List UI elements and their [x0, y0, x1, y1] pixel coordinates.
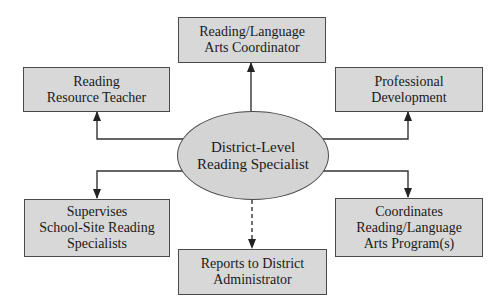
node-district-level-reading-specialist: District-Level Reading Specialist	[177, 111, 329, 200]
edge-to-lower-left	[97, 171, 185, 198]
node-professional-development: Professional Development	[335, 67, 483, 112]
node-supervises-school-site-reading-specialists: Supervises School-Site Reading Specialis…	[24, 199, 170, 257]
node-reading-resource-teacher: Reading Resource Teacher	[23, 67, 170, 112]
edge-to-upper-right	[320, 112, 408, 139]
node-label-line: Reports to District	[201, 256, 304, 272]
edge-to-upper-left	[97, 112, 185, 139]
node-label-line: Development	[371, 90, 446, 106]
node-label-line: Supervises	[67, 204, 128, 220]
node-label-line: Arts Program(s)	[364, 236, 455, 252]
node-reports-to-district-administrator: Reports to District Administrator	[178, 249, 327, 295]
node-coordinates-reading-language-arts-programs: Coordinates Reading/Language Arts Progra…	[335, 198, 483, 257]
center-label-line: District-Level	[211, 139, 295, 156]
node-label-line: Resource Teacher	[47, 90, 146, 106]
node-label-line: School-Site Reading	[39, 220, 155, 236]
node-label-line: Specialists	[67, 236, 127, 252]
edge-to-lower-right	[320, 171, 408, 197]
center-label-line: Reading Specialist	[197, 156, 309, 173]
node-label-line: Arts Coordinator	[204, 40, 299, 56]
node-label-line: Coordinates	[375, 204, 443, 220]
node-label-line: Administrator	[213, 272, 292, 288]
node-reading-language-arts-coordinator: Reading/Language Arts Coordinator	[178, 17, 326, 63]
node-label-line: Reading	[73, 74, 120, 90]
node-label-line: Reading/Language	[199, 24, 305, 40]
node-label-line: Professional	[374, 74, 443, 90]
node-label-line: Reading/Language	[356, 220, 462, 236]
